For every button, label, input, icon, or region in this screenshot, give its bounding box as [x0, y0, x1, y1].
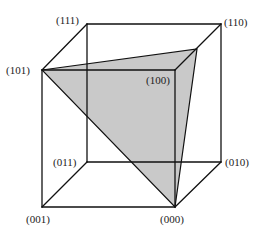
cube-diagram: (111) (110) (101) (100) (011) (010) (001… — [0, 0, 269, 234]
edge-101-111 — [42, 24, 87, 70]
edge-001-011 — [42, 162, 87, 207]
label-010: (010) — [225, 156, 249, 169]
label-001: (001) — [26, 213, 50, 226]
label-000: (000) — [160, 213, 184, 226]
label-111: (111) — [56, 14, 79, 27]
label-011: (011) — [53, 156, 77, 169]
edge-000-010 — [175, 162, 221, 207]
label-110: (110) — [224, 16, 248, 29]
label-101: (101) — [6, 64, 30, 77]
label-100: (100) — [146, 74, 170, 87]
edge-100-110 — [175, 24, 221, 70]
